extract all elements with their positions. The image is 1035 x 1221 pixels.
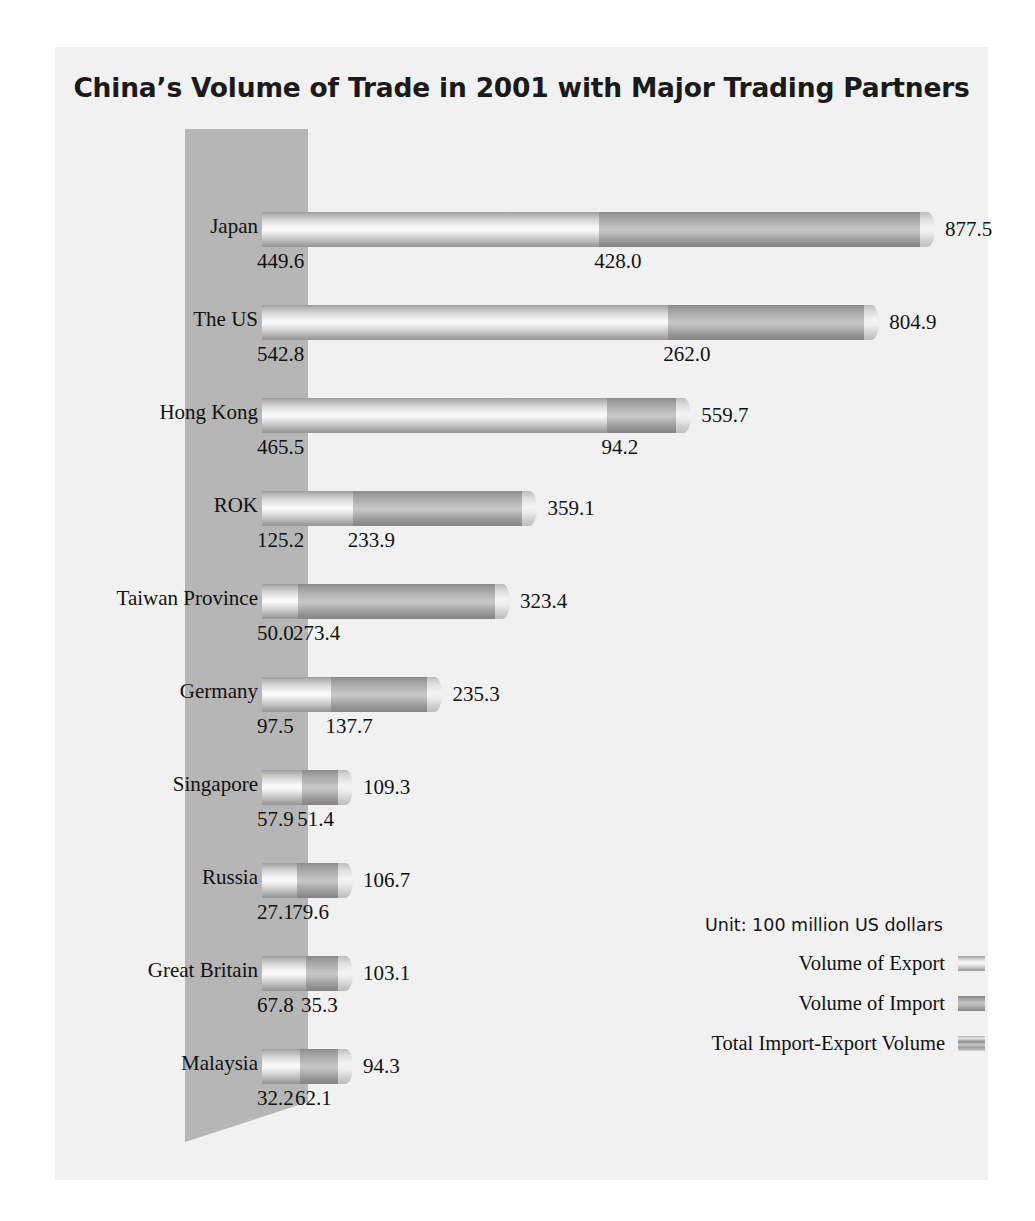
bar-segment-import[interactable]	[306, 956, 338, 991]
total-value-label: 106.7	[363, 863, 410, 898]
bar-end-cap	[676, 398, 691, 433]
legend-label-total: Total Import-Export Volume	[711, 1032, 945, 1055]
stacked-bar[interactable]	[262, 398, 691, 433]
total-value-label: 94.3	[363, 1049, 400, 1084]
bar-end-cap	[427, 677, 442, 712]
legend-label-export: Volume of Export	[798, 952, 945, 975]
category-label: Taiwan Province	[117, 584, 258, 612]
legend-label-import: Volume of Import	[798, 992, 945, 1015]
bar-segment-import[interactable]	[300, 1049, 338, 1084]
stacked-bar[interactable]	[262, 491, 537, 526]
stacked-bar[interactable]	[262, 584, 510, 619]
bar-segment-import[interactable]	[302, 770, 338, 805]
bar-segment-export[interactable]	[262, 491, 353, 526]
bar-segment-export[interactable]	[262, 770, 302, 805]
bar-segment-export[interactable]	[262, 212, 599, 247]
bar-end-cap	[338, 863, 353, 898]
legend-unit-note: Unit: 100 million US dollars	[645, 915, 985, 935]
total-value-label: 359.1	[547, 491, 594, 526]
category-label: The US	[193, 305, 258, 333]
category-label: Russia	[202, 863, 258, 891]
import-value-label: 262.0	[663, 342, 710, 367]
bar-segment-import[interactable]	[668, 305, 864, 340]
import-value-label: 35.3	[301, 993, 338, 1018]
bar-segment-export[interactable]	[262, 863, 297, 898]
bar-row: Japan877.5449.6428.0	[55, 204, 988, 294]
category-label: ROK	[214, 491, 258, 519]
export-value-label: 27.1	[257, 900, 294, 925]
bar-end-cap	[338, 1049, 353, 1084]
category-label: Japan	[210, 212, 258, 240]
stacked-bar[interactable]	[262, 212, 935, 247]
import-value-label: 273.4	[293, 621, 340, 646]
category-label: Hong Kong	[159, 398, 258, 426]
category-label: Malaysia	[181, 1049, 258, 1077]
bar-segment-export[interactable]	[262, 584, 298, 619]
category-label: Great Britain	[148, 956, 258, 984]
legend-swatch-total-icon	[958, 1036, 985, 1051]
export-value-label: 32.2	[257, 1086, 294, 1111]
total-value-label: 109.3	[363, 770, 410, 805]
bar-segment-export[interactable]	[262, 956, 306, 991]
total-value-label: 235.3	[452, 677, 499, 712]
bar-end-cap	[920, 212, 935, 247]
total-value-label: 804.9	[889, 305, 936, 340]
bar-end-cap	[522, 491, 537, 526]
legend-item-export: Volume of Export	[645, 952, 985, 975]
export-value-label: 97.5	[257, 714, 294, 739]
category-label: Singapore	[173, 770, 258, 798]
bar-segment-import[interactable]	[607, 398, 677, 433]
bar-end-cap	[495, 584, 510, 619]
stacked-bar[interactable]	[262, 1049, 353, 1084]
export-value-label: 57.9	[257, 807, 294, 832]
stacked-bar[interactable]	[262, 770, 353, 805]
chart-legend: Unit: 100 million US dollars Volume of E…	[645, 915, 985, 1055]
import-value-label: 428.0	[594, 249, 641, 274]
total-value-label: 103.1	[363, 956, 410, 991]
import-value-label: 51.4	[297, 807, 334, 832]
chart-panel: China’s Volume of Trade in 2001 with Maj…	[55, 47, 988, 1180]
bar-segment-export[interactable]	[262, 677, 331, 712]
bar-end-cap	[338, 770, 353, 805]
total-value-label: 323.4	[520, 584, 567, 619]
export-value-label: 449.6	[257, 249, 304, 274]
export-value-label: 67.8	[257, 993, 294, 1018]
bar-row: Hong Kong559.7465.594.2	[55, 390, 988, 480]
category-label: Germany	[180, 677, 258, 705]
legend-item-import: Volume of Import	[645, 992, 985, 1015]
total-value-label: 559.7	[701, 398, 748, 433]
export-value-label: 465.5	[257, 435, 304, 460]
stacked-bar[interactable]	[262, 305, 879, 340]
bar-segment-export[interactable]	[262, 305, 668, 340]
stacked-bar[interactable]	[262, 677, 442, 712]
import-value-label: 94.2	[602, 435, 639, 460]
import-value-label: 233.9	[348, 528, 395, 553]
stacked-bar[interactable]	[262, 956, 353, 991]
bar-segment-import[interactable]	[298, 584, 495, 619]
import-value-label: 137.7	[326, 714, 373, 739]
bar-row: Germany235.397.5137.7	[55, 669, 988, 759]
bar-end-cap	[338, 956, 353, 991]
bar-segment-import[interactable]	[353, 491, 523, 526]
legend-swatch-export-icon	[958, 956, 985, 971]
bar-row: ROK359.1125.2233.9	[55, 483, 988, 573]
bar-segment-export[interactable]	[262, 1049, 300, 1084]
bar-row: Singapore109.357.951.4	[55, 762, 988, 852]
legend-swatch-import-icon	[958, 996, 985, 1011]
legend-item-total: Total Import-Export Volume	[645, 1032, 985, 1055]
export-value-label: 125.2	[257, 528, 304, 553]
bar-segment-import[interactable]	[331, 677, 428, 712]
import-value-label: 62.1	[295, 1086, 332, 1111]
total-value-label: 877.5	[945, 212, 992, 247]
bar-segment-import[interactable]	[297, 863, 338, 898]
bar-row: Taiwan Province323.450.0273.4	[55, 576, 988, 666]
bar-segment-import[interactable]	[599, 212, 920, 247]
export-value-label: 542.8	[257, 342, 304, 367]
bar-row: The US804.9542.8262.0	[55, 297, 988, 387]
import-value-label: 79.6	[292, 900, 329, 925]
bar-segment-export[interactable]	[262, 398, 607, 433]
export-value-label: 50.0	[257, 621, 294, 646]
stacked-bar[interactable]	[262, 863, 353, 898]
bar-end-cap	[864, 305, 879, 340]
